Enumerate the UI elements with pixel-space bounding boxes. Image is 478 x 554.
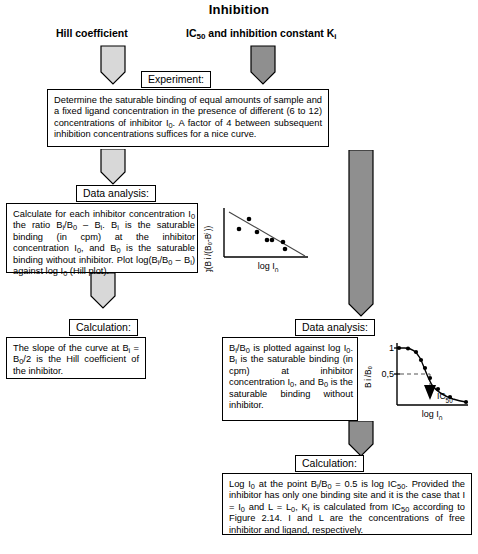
chart-hill-plot: log(B i /(B₀-Bⁱ )) log I0 [197,203,312,273]
ic50-point [428,376,432,380]
ic50-curve-svg: B i /B₀ 1 0,5 IC50 log I0 [358,337,472,420]
box-experiment-text: Determine the saturable binding of equal… [54,95,322,141]
ic50-point [414,350,418,354]
hill-plot-fit-line [229,212,305,256]
box-experiment: Determine the saturable binding of equal… [47,89,329,147]
hill-plot-point [265,238,270,243]
tab-experiment: Experiment: [141,71,211,88]
tab-calculation-left: Calculation: [69,319,138,336]
arrow-experiment-to-data-analysis-left [100,149,126,185]
ic50-ytick-half: 0,5 [381,369,394,379]
hill-plot-ylabel: log(B i /(B₀-Bⁱ )) [204,226,213,272]
ic50-middle: and inhibition constant K [205,27,334,39]
tab-data-analysis-left: Data analysis: [76,185,156,202]
ic50-ytick-1: 1 [389,343,394,353]
ic50-point [423,366,427,370]
hill-plot-point [281,240,286,245]
tab-calculation-right: Calculation: [295,455,364,472]
hill-plot-point [270,238,275,243]
arrow-hill-to-experiment [100,45,126,85]
hill-plot-point [237,227,242,232]
ki-subscript: i [334,32,336,41]
ic50-point [464,400,468,404]
tab-data-analysis-right: Data analysis: [295,319,375,336]
chart-ic50-curve: B i /B₀ 1 0,5 IC50 log I0 [357,337,472,421]
box-calculation-right: Log I0 at the point Bi/B0 = 0.5 is log I… [222,473,472,535]
ic50-xlabel: log I0 [422,409,443,420]
arrow-data-analysis-left-to-calculation-left [90,273,116,309]
page-title: Inhibition [0,2,478,17]
ic50-point [397,346,401,350]
ic50-point [406,346,410,350]
arrow-experiment-to-data-analysis-right [348,150,374,317]
box-data-analysis-left-text: Calculate for each inhibitor concentrati… [13,209,195,277]
box-calculation-left: The slope of the curve at Bi = B0/2 is t… [6,337,146,379]
hill-plot-point [283,247,288,252]
box-data-analysis-right-text: Bi/B0 is plotted against log I0. Bi is t… [229,343,353,411]
hill-plot-svg: log(B i /(B₀-Bⁱ )) log I0 [198,203,312,272]
box-calculation-right-text: Log I0 at the point Bi/B0 = 0.5 is log I… [229,479,465,536]
hill-plot-point [255,230,260,235]
route-label-ic50-ki: IC50 and inhibition constant Ki [186,27,337,39]
ic50-point [419,358,423,362]
arrow-data-analysis-right-to-calculation-right [348,421,374,457]
ic50-ylabel: B i /B₀ [363,365,373,388]
hill-plot-xlabel: log I0 [258,261,279,272]
ic50-arrow-marker [424,385,436,400]
route-label-hill-coefficient: Hill coefficient [56,27,128,39]
ic50-prefix: IC [186,27,197,39]
arrow-ic50-to-experiment [250,45,276,85]
hill-plot-point [247,217,252,222]
ic50-subscript: 50 [197,32,206,41]
box-calculation-left-text: The slope of the curve at Bi = B0/2 is t… [13,343,139,377]
ic50-annotation: IC50 [437,391,453,404]
